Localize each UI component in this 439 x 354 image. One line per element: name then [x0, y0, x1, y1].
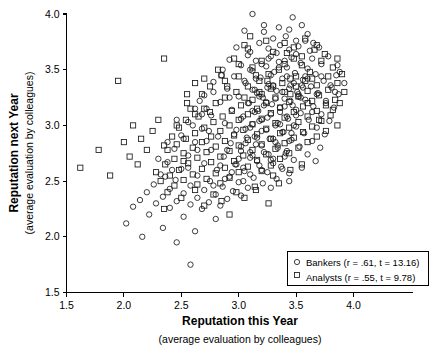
data-point-analyst: [213, 171, 218, 176]
series-analysts-markers: [78, 34, 347, 217]
data-point-banker: [202, 187, 207, 192]
data-point-banker: [211, 79, 216, 84]
data-point-analyst: [202, 76, 207, 81]
data-point-analyst: [184, 101, 189, 106]
data-point-banker: [151, 182, 156, 187]
data-point-banker: [260, 181, 265, 186]
data-point-analyst: [96, 147, 101, 152]
x-axis-title: Reputation this Year: [182, 314, 298, 328]
data-point-banker: [144, 190, 149, 195]
data-point-banker: [318, 145, 323, 150]
x-tick-label: 3.0: [231, 299, 246, 311]
y-tick-label: 1.5: [45, 286, 60, 298]
data-point-banker: [327, 118, 332, 123]
data-point-analyst: [314, 134, 319, 139]
data-point-analyst: [236, 170, 241, 175]
data-point-banker: [174, 117, 179, 122]
legend-label-analysts: Analysts (r = .55, t = 9.78): [306, 272, 415, 283]
data-point-banker: [319, 74, 324, 79]
data-point-banker: [265, 115, 270, 120]
data-point-analyst: [265, 78, 270, 83]
data-point-analyst: [220, 114, 225, 119]
data-point-analyst: [218, 128, 223, 133]
data-point-analyst: [238, 103, 243, 108]
data-point-banker: [287, 171, 292, 176]
data-point-banker: [181, 214, 186, 219]
data-point-banker: [257, 40, 262, 45]
data-point-analyst: [161, 206, 166, 211]
data-point-banker: [322, 132, 327, 137]
data-point-analyst: [248, 34, 253, 39]
data-point-banker: [192, 139, 197, 144]
data-point-analyst: [323, 128, 328, 133]
data-point-banker: [299, 165, 304, 170]
data-point-banker: [313, 71, 318, 76]
data-point-banker: [230, 188, 235, 193]
data-point-banker: [282, 96, 287, 101]
data-point-banker: [167, 205, 172, 210]
data-point-banker: [270, 36, 275, 41]
data-point-banker: [334, 73, 339, 78]
data-point-banker: [274, 88, 279, 93]
data-point-banker: [160, 225, 165, 230]
data-point-banker: [242, 28, 247, 33]
data-point-banker: [261, 29, 266, 34]
data-point-banker: [287, 27, 292, 32]
data-point-analyst: [288, 92, 293, 97]
data-point-analyst: [242, 95, 247, 100]
data-point-banker: [219, 73, 224, 78]
data-point-analyst: [207, 109, 212, 114]
y-axis-tick-labels: 1.52.02.53.03.54.0: [45, 8, 60, 299]
data-point-banker: [261, 22, 266, 27]
data-point-analyst: [195, 182, 200, 187]
data-point-analyst: [78, 165, 83, 170]
data-point-analyst: [335, 123, 340, 128]
data-point-banker: [188, 183, 193, 188]
data-point-banker: [276, 59, 281, 64]
data-point-banker: [282, 58, 287, 63]
data-point-banker: [206, 200, 211, 205]
data-point-banker: [169, 167, 174, 172]
data-point-banker: [245, 185, 250, 190]
x-tick-label: 2.0: [117, 299, 132, 311]
data-point-analyst: [342, 89, 347, 94]
data-point-banker: [234, 45, 239, 50]
data-point-analyst: [158, 179, 163, 184]
data-point-banker: [188, 202, 193, 207]
y-axis-title: Reputation next Year: [7, 93, 21, 212]
data-point-banker: [265, 169, 270, 174]
data-point-banker: [287, 178, 292, 183]
data-point-banker: [153, 201, 158, 206]
series-bankers-markers: [124, 11, 348, 267]
data-point-banker: [274, 50, 279, 55]
data-point-analyst: [209, 160, 214, 165]
data-point-analyst: [116, 78, 121, 83]
data-point-analyst: [227, 212, 232, 217]
data-point-analyst: [108, 173, 113, 178]
data-point-banker: [291, 157, 296, 162]
data-point-banker: [137, 197, 142, 202]
x-axis-tick-labels: 1.52.02.53.03.54.0: [59, 299, 361, 311]
data-point-banker: [309, 56, 314, 61]
data-point-analyst: [264, 38, 269, 43]
data-point-banker: [287, 86, 292, 91]
data-point-banker: [165, 139, 170, 144]
data-point-banker: [251, 175, 256, 180]
y-tick-label: 2.0: [45, 230, 60, 242]
data-point-banker: [174, 198, 179, 203]
data-point-analyst: [242, 43, 247, 48]
data-point-analyst: [156, 117, 161, 122]
data-point-banker: [305, 152, 310, 157]
data-point-banker: [140, 234, 145, 239]
data-point-banker: [265, 85, 270, 90]
data-point-analyst: [335, 56, 340, 61]
x-tick-label: 1.5: [59, 299, 74, 311]
x-tick-label: 4.0: [346, 299, 361, 311]
data-point-banker: [266, 46, 271, 51]
data-point-analyst: [192, 187, 197, 192]
data-point-analyst: [222, 138, 227, 143]
data-point-analyst: [305, 114, 310, 119]
data-point-analyst: [139, 136, 144, 141]
data-point-analyst: [195, 155, 200, 160]
data-point-analyst: [250, 97, 255, 102]
